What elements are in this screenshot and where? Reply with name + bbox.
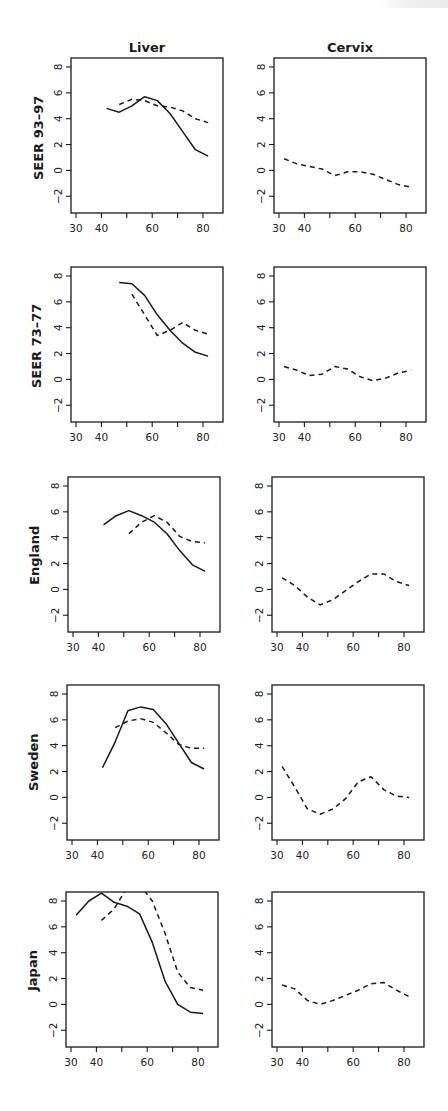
y-tick-label: −2	[48, 816, 60, 831]
x-tick-label: 30	[270, 849, 283, 861]
y-tick-label: 2	[253, 768, 265, 775]
x-tick-label: 30	[64, 1056, 77, 1068]
y-tick-label: 0	[253, 794, 265, 801]
x-tick-label: 60	[347, 641, 360, 653]
x-tick-label: 30	[272, 222, 285, 234]
y-tick-label: −2	[49, 608, 61, 623]
series-dashed-line	[129, 516, 205, 543]
y-tick-label: 2	[255, 350, 267, 357]
y-tick-label: 4	[253, 949, 265, 956]
x-tick-label: 60	[347, 849, 360, 861]
plot-panel-cervix-england: −20246830406080	[242, 447, 448, 662]
plot-frame	[274, 267, 426, 422]
y-tick-label: −2	[253, 816, 265, 831]
series-solid-line	[103, 707, 205, 769]
x-tick-label: 40	[95, 431, 108, 443]
x-tick-label: 30	[65, 849, 78, 861]
plot-panel-cervix-seer-73-77: −20246830406080	[244, 237, 448, 452]
x-tick-label: 30	[270, 1056, 283, 1068]
y-tick-label: 2	[52, 350, 64, 357]
plot-panel-liver-seer-93-97: −20246830406080	[41, 28, 253, 243]
series-dashed-line	[284, 367, 411, 381]
y-tick-label: 4	[52, 324, 64, 331]
plot-frame	[272, 892, 424, 1047]
plot-panel-cervix-japan: −20246830406080	[242, 862, 448, 1077]
plot-frame	[71, 267, 223, 422]
x-tick-label: 60	[146, 222, 159, 234]
x-tick-label: 60	[143, 641, 156, 653]
x-tick-label: 80	[192, 849, 205, 861]
x-tick-label: 30	[270, 641, 283, 653]
plot-panel-liver-japan: −20246830406080	[36, 862, 248, 1077]
y-tick-label: 6	[255, 89, 267, 96]
plot-frame	[274, 58, 426, 213]
series-dashed-line	[282, 766, 409, 814]
y-tick-label: 4	[253, 534, 265, 541]
x-tick-label: 60	[347, 1056, 360, 1068]
y-tick-label: 8	[253, 483, 265, 490]
plot-frame	[68, 477, 220, 632]
y-tick-label: −2	[253, 608, 265, 623]
x-tick-label: 80	[397, 1056, 410, 1068]
y-tick-label: −2	[52, 189, 64, 204]
x-tick-label: 60	[141, 1056, 154, 1068]
series-dashed-line	[282, 574, 409, 605]
page-corner-artifact	[378, 0, 448, 8]
series-dashed-line	[284, 159, 411, 187]
x-tick-label: 40	[95, 222, 108, 234]
y-tick-label: 2	[253, 975, 265, 982]
y-tick-label: 0	[52, 167, 64, 174]
x-tick-label: 60	[349, 222, 362, 234]
x-tick-label: 40	[298, 431, 311, 443]
y-tick-label: 0	[48, 794, 60, 801]
y-tick-label: 8	[52, 273, 64, 280]
y-tick-label: −2	[52, 398, 64, 413]
x-tick-label: 30	[66, 641, 79, 653]
x-tick-label: 80	[191, 1056, 204, 1068]
y-tick-label: 6	[48, 716, 60, 723]
y-tick-label: 4	[48, 742, 60, 749]
y-tick-label: 8	[255, 64, 267, 71]
x-tick-label: 40	[296, 641, 309, 653]
x-tick-label: 30	[272, 431, 285, 443]
plot-frame	[71, 58, 223, 213]
x-tick-label: 80	[397, 641, 410, 653]
y-tick-label: 4	[253, 742, 265, 749]
plot-panel-liver-seer-73-77: −20246830406080	[41, 237, 253, 452]
series-dashed-line	[115, 719, 204, 749]
y-tick-label: −2	[255, 189, 267, 204]
series-dashed-line	[119, 99, 208, 122]
y-tick-label: 6	[253, 716, 265, 723]
x-tick-label: 30	[69, 431, 82, 443]
y-tick-label: 0	[253, 586, 265, 593]
x-tick-label: 60	[146, 431, 159, 443]
y-tick-label: 0	[52, 376, 64, 383]
y-tick-label: 6	[255, 298, 267, 305]
plot-panel-liver-sweden: −20246830406080	[37, 655, 249, 870]
y-tick-label: 2	[253, 560, 265, 567]
y-tick-label: −2	[255, 398, 267, 413]
x-tick-label: 60	[349, 431, 362, 443]
x-tick-label: 80	[196, 222, 209, 234]
y-tick-label: 0	[49, 586, 61, 593]
y-tick-label: 6	[47, 923, 59, 930]
x-tick-label: 80	[397, 849, 410, 861]
y-tick-label: 0	[253, 1001, 265, 1008]
y-tick-label: 2	[52, 141, 64, 148]
plot-frame	[272, 477, 424, 632]
y-tick-label: 2	[49, 560, 61, 567]
series-dashed-line	[102, 884, 204, 990]
x-tick-label: 80	[193, 641, 206, 653]
y-tick-label: 8	[49, 483, 61, 490]
x-tick-label: 80	[196, 431, 209, 443]
x-tick-label: 60	[142, 849, 155, 861]
y-tick-label: 6	[253, 923, 265, 930]
x-tick-label: 40	[296, 849, 309, 861]
y-tick-label: 4	[47, 949, 59, 956]
x-tick-label: 30	[69, 222, 82, 234]
y-tick-label: 6	[49, 508, 61, 515]
x-tick-label: 40	[298, 222, 311, 234]
x-tick-label: 40	[92, 641, 105, 653]
series-dashed-line	[282, 982, 409, 1004]
y-tick-label: 8	[52, 64, 64, 71]
